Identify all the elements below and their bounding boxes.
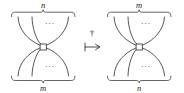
- left-top-label: n: [41, 0, 45, 10]
- left-bottom-strands: [18, 48, 69, 76]
- right-bottom-label: n: [137, 83, 141, 93]
- right-top-ellipsis: ···: [141, 19, 151, 28]
- left-string-diagram: n ··· ···: [12, 0, 75, 92]
- right-bottom-strands: [114, 48, 165, 76]
- left-top-ellipsis: ···: [45, 19, 55, 28]
- right-center-node: [136, 44, 142, 50]
- left-bottom-label: m: [40, 83, 46, 93]
- right-string-diagram: m ··· ···: [108, 0, 171, 92]
- left-center-node: [40, 44, 46, 50]
- right-top-strands: [114, 17, 165, 45]
- left-bottom-ellipsis: ···: [45, 62, 55, 71]
- right-bottom-ellipsis: ···: [141, 62, 151, 71]
- right-top-brace: [108, 10, 171, 17]
- dagger-icon: †: [90, 28, 95, 38]
- left-top-strands: [18, 17, 69, 45]
- right-top-label: m: [136, 0, 142, 10]
- string-diagram-figure: n ··· ···: [0, 0, 184, 92]
- mapsto-icon: [85, 43, 100, 51]
- transform-operator: †: [85, 28, 100, 51]
- left-top-brace: [12, 10, 75, 17]
